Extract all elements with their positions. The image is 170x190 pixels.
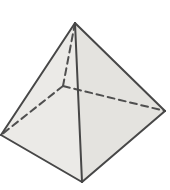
pyramid-diagram — [0, 0, 170, 190]
pyramid-right-face — [75, 23, 165, 182]
pyramid-figure — [0, 0, 170, 190]
